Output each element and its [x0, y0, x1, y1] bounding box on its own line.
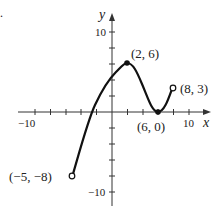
y-axis-arrow-icon	[109, 13, 115, 21]
end-point-label: (8, 3)	[180, 81, 208, 96]
x-axis: −10 10 x	[18, 109, 211, 130]
y-axis-label: y	[97, 7, 106, 22]
start-open-point-marker	[69, 173, 75, 179]
x-tick-label-neg10: −10	[18, 117, 36, 129]
y-tick-label-10: 10	[95, 26, 107, 38]
y-tick-label-neg10: −10	[88, 186, 106, 198]
min-point-label: (6, 0)	[137, 119, 165, 134]
end-open-point-marker	[170, 85, 176, 91]
x-tick-label-10: 10	[183, 117, 195, 129]
min-point-marker	[155, 109, 161, 115]
function-graph: . −10 10 x	[0, 0, 221, 213]
corner-mark: .	[0, 6, 3, 20]
x-axis-label: x	[202, 115, 210, 130]
y-axis: 10 −10 y	[88, 7, 115, 206]
max-point-label: (2, 6)	[131, 46, 159, 61]
start-point-label: (−5, −8)	[9, 169, 52, 184]
max-point-marker	[124, 60, 130, 66]
